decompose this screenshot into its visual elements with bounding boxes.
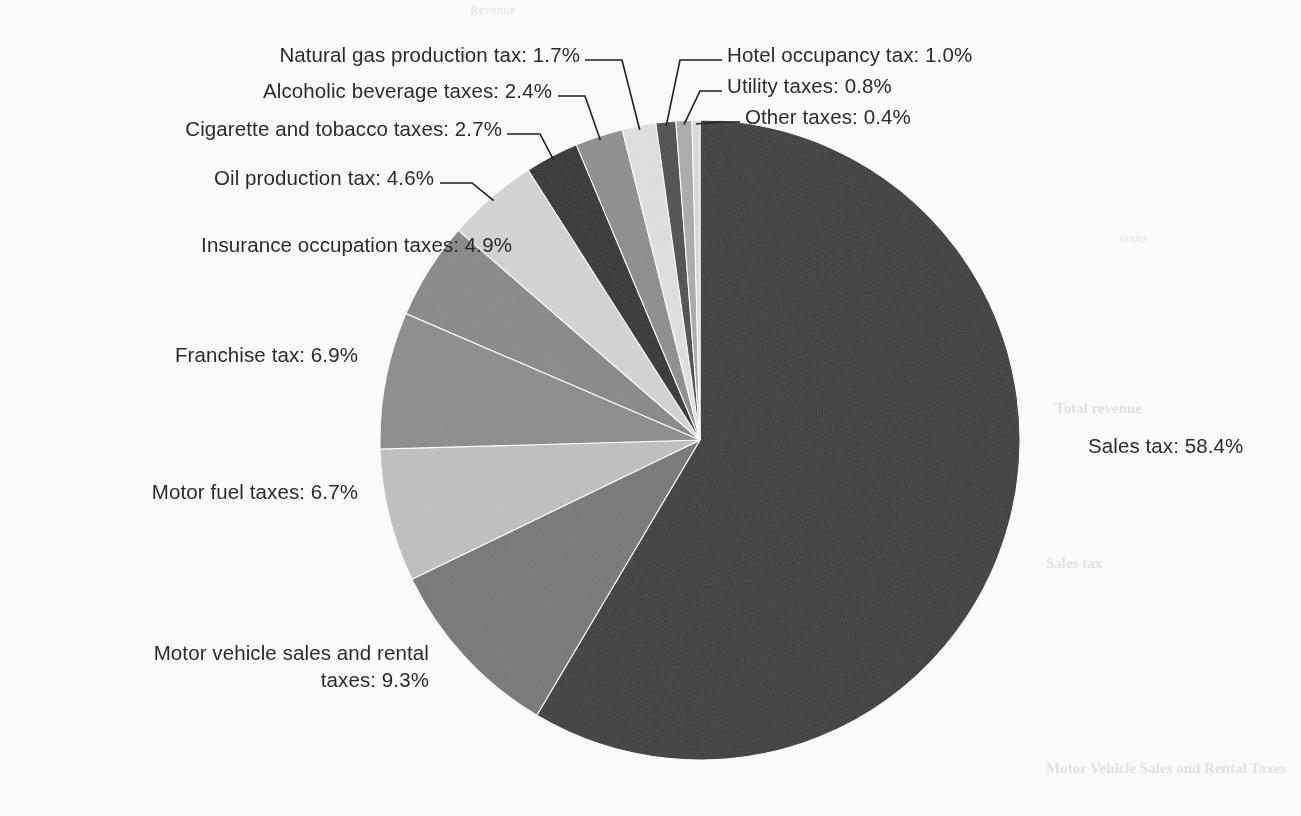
pie-label-alcoholic-beverage-taxes: Alcoholic beverage taxes: 2.4% xyxy=(80,77,552,104)
leader-line xyxy=(507,134,554,160)
pie-label-motor-vehicle-line1: Motor vehicle sales and rental xyxy=(154,641,429,664)
pie-label-hotel-occupancy-tax: Hotel occupancy tax: 1.0% xyxy=(727,41,972,68)
pie-label-franchise-tax: Franchise tax: 6.9% xyxy=(80,341,358,368)
leader-line xyxy=(440,183,494,201)
pie-label-motor-fuel-taxes: Motor fuel taxes: 6.7% xyxy=(60,478,358,505)
pie-label-motor-vehicle-line2: taxes: 9.3% xyxy=(321,668,429,691)
pie-slices-group xyxy=(380,120,1020,760)
leader-line xyxy=(666,60,722,126)
pie-chart: Natural gas production tax: 1.7% Alcohol… xyxy=(0,0,1301,816)
pie-label-sales-tax: Sales tax: 58.4% xyxy=(1088,432,1243,459)
pie-label-other-taxes: Other taxes: 0.4% xyxy=(745,103,911,130)
pie-label-utility-taxes: Utility taxes: 0.8% xyxy=(727,72,892,99)
pie-label-insurance-occupation-taxes: Insurance occupation taxes: 4.9% xyxy=(40,231,512,258)
pie-label-motor-vehicle-sales-and-rental-taxes: Motor vehicle sales and rental taxes: 9.… xyxy=(60,639,429,693)
leader-line xyxy=(558,96,600,140)
pie-label-cigarette-and-tobacco-taxes: Cigarette and tobacco taxes: 2.7% xyxy=(60,115,502,142)
pie-label-natural-gas-production-tax: Natural gas production tax: 1.7% xyxy=(100,41,580,68)
pie-label-oil-production-tax: Oil production tax: 4.6% xyxy=(80,164,434,191)
leader-line xyxy=(684,91,722,124)
